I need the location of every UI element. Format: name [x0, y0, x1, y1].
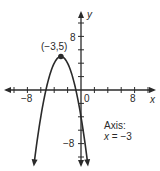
vertex-label: (−3,5) [41, 42, 67, 52]
y-axis-down-arrow-icon [78, 160, 84, 167]
axis-of-symmetry-note: Axis: x = −3 [104, 120, 132, 142]
y-axis [78, 11, 84, 167]
vertex-point [58, 54, 64, 60]
x-tick-label-neg8: −8 [21, 94, 32, 104]
axis-equation: x = −3 [104, 131, 132, 142]
parabola-graph [0, 0, 160, 171]
parabola-right-arrow-icon [84, 159, 90, 166]
axis-equation-value: = −3 [109, 131, 132, 142]
x-tick-label-0: 0 [84, 94, 90, 104]
x-axis-left-arrow-icon [4, 87, 11, 93]
x-axis-right-arrow-icon [149, 87, 156, 93]
y-axis-up-arrow-icon [78, 11, 84, 18]
parabola-left-arrow-icon [32, 159, 38, 166]
axis-title: Axis: [104, 120, 132, 131]
y-axis-label: y [87, 10, 92, 20]
x-axis-label: x [150, 95, 155, 105]
y-tick-label-8: 8 [70, 33, 76, 43]
y-tick-label-neg8: −8 [63, 139, 74, 149]
x-tick-label-8: 8 [130, 94, 136, 104]
parabola-path [34, 57, 87, 162]
